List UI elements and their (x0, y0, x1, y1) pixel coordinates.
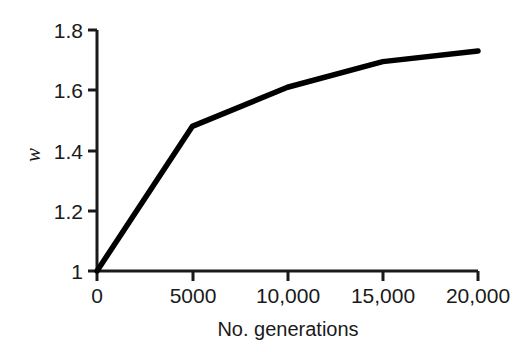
x-axis-title: No. generations (217, 318, 358, 340)
x-tick-label-10000: 10,000 (256, 284, 320, 307)
x-tick-label-0: 0 (91, 284, 103, 307)
line-chart: 1.8 1.6 1.4 1.2 1 0 5000 10,000 15,000 2… (0, 0, 526, 352)
y-axis-title: w (21, 148, 45, 162)
y-tick-label-1.6: 1.6 (54, 79, 83, 102)
x-tick-label-5000: 5000 (170, 284, 217, 307)
y-tick-label-1.2: 1.2 (54, 200, 83, 223)
x-tick-label-15000: 15,000 (351, 284, 415, 307)
chart-figure: 1.8 1.6 1.4 1.2 1 0 5000 10,000 15,000 2… (0, 0, 526, 352)
y-tick-label-1.8: 1.8 (54, 19, 83, 42)
x-tick-label-20000: 20,000 (446, 284, 510, 307)
y-tick-label-1.0: 1 (71, 260, 83, 283)
y-tick-label-1.4: 1.4 (54, 140, 84, 163)
